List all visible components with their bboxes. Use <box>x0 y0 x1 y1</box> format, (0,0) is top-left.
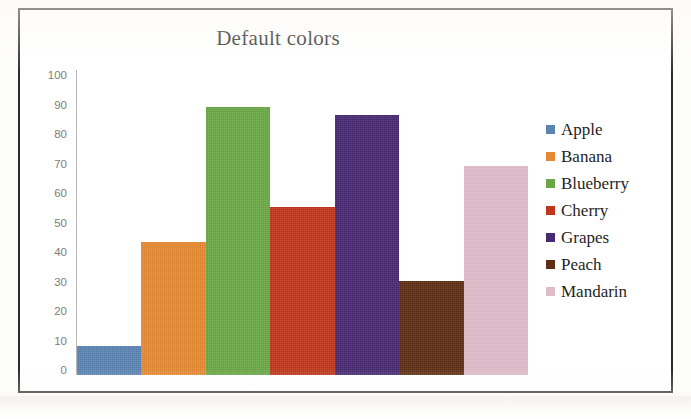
y-axis-tick-40: 40 <box>54 246 67 258</box>
legend-swatch-icon-mandarin <box>546 287 555 296</box>
y-axis-tick-30: 30 <box>54 276 67 288</box>
y-axis-tick-80: 80 <box>54 128 67 140</box>
legend-label: Peach <box>561 256 602 273</box>
y-axis-tick-100: 100 <box>48 69 67 81</box>
legend-swatch-icon-apple <box>546 125 555 134</box>
legend-label: Grapes <box>561 229 609 246</box>
bar-fill-apple <box>77 346 141 376</box>
bar-fill-blueberry <box>206 107 270 375</box>
chart-title: Default colors <box>18 26 538 51</box>
y-axis-tick-90: 90 <box>54 99 67 111</box>
plot-area: 1009080706050403020100 <box>76 70 528 380</box>
y-axis-tick-20: 20 <box>54 305 67 317</box>
legend-item-apple[interactable]: Apple <box>546 116 666 143</box>
legend-item-peach[interactable]: Peach <box>546 251 666 278</box>
page-canvas: Default colors 1009080706050403020100 Ap… <box>0 0 691 419</box>
y-axis-tick-0: 0 <box>61 364 67 376</box>
bar-fill-banana <box>141 242 205 375</box>
bar-fill-mandarin <box>464 166 528 375</box>
bar-fill-grapes <box>335 115 399 375</box>
legend-swatch-icon-grapes <box>546 233 555 242</box>
legend-swatch-icon-peach <box>546 260 555 269</box>
legend-label: Banana <box>561 148 612 165</box>
legend-swatch-icon-banana <box>546 152 555 161</box>
legend-item-blueberry[interactable]: Blueberry <box>546 170 666 197</box>
legend-item-mandarin[interactable]: Mandarin <box>546 278 666 305</box>
legend-item-cherry[interactable]: Cherry <box>546 197 666 224</box>
chart-legend: AppleBananaBlueberryCherryGrapesPeachMan… <box>546 116 666 305</box>
legend-label: Mandarin <box>561 283 627 300</box>
y-axis-tick-70: 70 <box>54 158 67 170</box>
legend-swatch-icon-blueberry <box>546 179 555 188</box>
legend-swatch-icon-cherry <box>546 206 555 215</box>
bar-series <box>77 80 528 375</box>
legend-item-banana[interactable]: Banana <box>546 143 666 170</box>
legend-label: Cherry <box>561 202 608 219</box>
scan-bottom-strip <box>0 396 691 419</box>
y-axis-tick-50: 50 <box>54 217 67 229</box>
legend-label: Blueberry <box>561 175 629 192</box>
y-axis-tick-60: 60 <box>54 187 67 199</box>
bar-chart: Default colors 1009080706050403020100 Ap… <box>18 8 673 393</box>
bar-fill-cherry <box>270 207 334 375</box>
legend-label: Apple <box>561 121 603 138</box>
legend-item-grapes[interactable]: Grapes <box>546 224 666 251</box>
bar-fill-peach <box>399 281 463 375</box>
y-axis-tick-10: 10 <box>54 335 67 347</box>
